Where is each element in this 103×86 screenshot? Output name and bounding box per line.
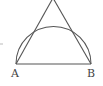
label-b: B [87,67,95,80]
side-right [53,0,91,64]
label-a: A [10,67,20,80]
faint-mark [0,43,3,45]
geometry-diagram: A B [0,0,103,86]
side-left [16,0,53,64]
